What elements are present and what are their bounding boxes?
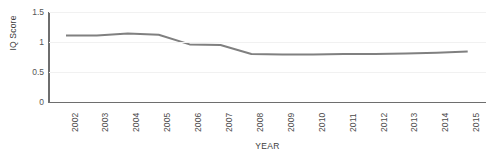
gridline	[49, 72, 486, 73]
y-axis-tick-label: 1.5	[4, 8, 44, 17]
data-series-line	[49, 12, 486, 102]
gridline	[49, 12, 486, 13]
y-axis-tick-label: 0.5	[4, 68, 44, 77]
series-polyline	[66, 34, 468, 55]
y-axis-tick-label: 1	[4, 38, 44, 47]
x-axis-tick-label: 2009	[287, 98, 321, 132]
x-axis-tick-label: 2011	[349, 98, 383, 132]
plot-area	[49, 12, 486, 102]
x-axis-tick-label: 2006	[194, 98, 228, 132]
x-axis-title: YEAR	[49, 141, 486, 151]
gridline	[49, 42, 486, 43]
x-axis-tick-labels: 2002200320042005200620072008200920102011…	[0, 104, 492, 138]
line-chart: IQ Score 00.511.5 2002200320042005200620…	[0, 0, 492, 160]
x-axis-tick-label: 2007	[225, 98, 259, 132]
x-axis-tick-label: 2008	[256, 98, 290, 132]
x-axis-tick-label: 2015	[472, 98, 492, 132]
x-axis-tick-label: 2010	[318, 98, 352, 132]
